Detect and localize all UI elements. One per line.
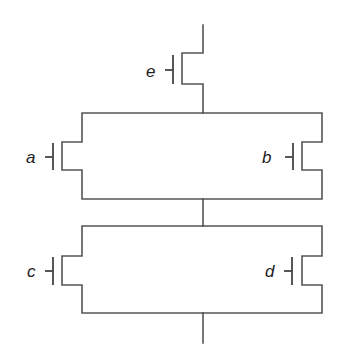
upper-block-left-branch	[62, 113, 203, 199]
transistor-d: d	[265, 257, 292, 285]
top-terminal-wire	[182, 25, 203, 113]
lower-block-left-branch	[62, 226, 203, 313]
lower-block-right-branch	[203, 226, 322, 313]
parallel-block-ab: a b	[26, 113, 322, 199]
label-c: c	[27, 262, 36, 281]
transistor-a: a	[26, 143, 53, 170]
label-a: a	[26, 148, 35, 167]
transistor-circuit-diagram: e a b c d	[0, 0, 343, 358]
transistor-e: e	[146, 25, 203, 113]
transistor-c: c	[27, 257, 53, 285]
parallel-block-cd: c d	[27, 226, 322, 313]
label-d: d	[265, 262, 275, 281]
label-b: b	[262, 148, 271, 167]
label-e: e	[146, 62, 155, 81]
transistor-b: b	[262, 143, 293, 170]
